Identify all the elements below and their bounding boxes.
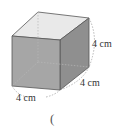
cube-front-face: [12, 36, 60, 90]
answer-blank-open-paren: (: [50, 112, 54, 126]
width-label: 4 cm: [16, 92, 36, 103]
depth-label: 4 cm: [80, 77, 100, 88]
cube-diagram: 4 cm 4 cm 4 cm: [0, 0, 129, 132]
height-label: 4 cm: [92, 38, 112, 49]
